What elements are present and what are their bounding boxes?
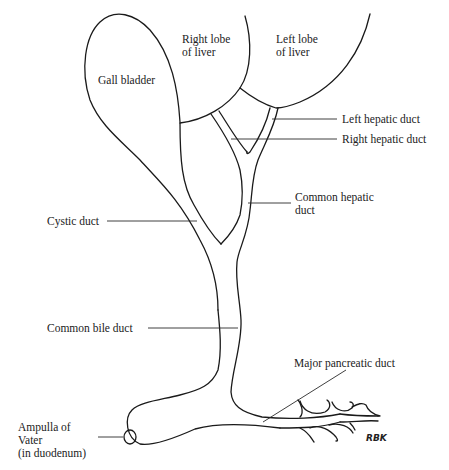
pancreatic-branch-lower-1 <box>300 428 314 442</box>
ampulla-opening <box>124 430 136 444</box>
label-common-bile-duct: Common bile duct <box>47 322 133 334</box>
label-left-lobe-line2: of liver <box>276 46 310 58</box>
label-left-lobe-line1: Left lobe <box>276 33 318 45</box>
label-ampulla-line1: Ampulla of <box>18 421 71 434</box>
pancreatic-branch-lower-3 <box>329 424 353 433</box>
right-hepatic-duct-inner-wall <box>219 111 247 152</box>
pancreatic-branch-upper-3 <box>332 402 353 411</box>
label-left-hepatic-duct: Left hepatic duct <box>342 113 421 126</box>
cystic-duct-inner-wall <box>180 123 221 244</box>
gall-bladder-outline <box>85 14 218 310</box>
right-hepatic-duct-outer-wall <box>211 114 242 244</box>
label-right-lobe-line1: Right lobe <box>182 33 230 46</box>
artist-signature: RBK <box>366 433 388 443</box>
left-hepatic-duct-inner-wall <box>247 108 270 154</box>
left-lobe-outline <box>240 14 370 108</box>
label-cystic-duct: Cystic duct <box>47 215 100 228</box>
label-ampulla-line2: Vater <box>18 434 42 446</box>
pancreatic-branch-lower-2 <box>310 427 338 441</box>
label-ampulla-line3: (in duodenum) <box>18 447 86 460</box>
left-hepatic-duct-outer-wall <box>231 108 340 418</box>
label-right-lobe-line2: of liver <box>182 46 216 58</box>
label-common-hepatic-line1: Common hepatic <box>295 191 374 204</box>
biliary-tree-diagram: Gall bladder Right lobe of liver Left lo… <box>0 0 449 470</box>
pancreatic-duct-lower-main <box>340 421 378 422</box>
label-right-hepatic-duct: Right hepatic duct <box>342 133 427 146</box>
leader-major-pancreatic-duct <box>263 370 346 422</box>
label-major-pancreatic-duct: Major pancreatic duct <box>294 357 396 370</box>
common-bile-duct-left-wall <box>127 310 280 444</box>
label-common-hepatic-line2: duct <box>295 204 316 216</box>
pancreatic-duct-upper-end <box>340 414 378 416</box>
pancreatic-branch-upper-4 <box>352 404 380 416</box>
label-gall-bladder: Gall bladder <box>98 74 155 86</box>
pancreatic-branch-upper-2 <box>300 400 330 413</box>
